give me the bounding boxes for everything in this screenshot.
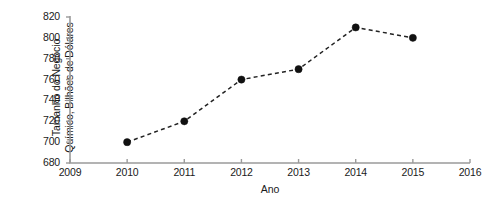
data-line-dashed [127,27,413,142]
data-point-marker [181,118,188,125]
data-point-marker [352,24,359,31]
chart-container: Tamanho do Negócio Químico, Bilhões de D… [0,0,496,205]
data-point-marker [238,76,245,83]
data-point-markers [124,24,417,146]
data-point-marker [409,34,416,41]
x-axis-title: Ano [0,183,496,195]
data-point-marker [124,139,131,146]
plot-area [0,0,496,205]
data-point-marker [295,66,302,73]
series-line [127,27,413,142]
